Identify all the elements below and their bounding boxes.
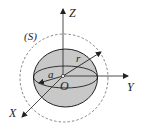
y-axis-label: Y	[127, 80, 135, 94]
charged-sphere	[34, 49, 98, 107]
origin-point	[61, 74, 64, 77]
z-axis-label: Z	[69, 6, 76, 20]
radius-r-label: r	[76, 52, 81, 64]
x-axis-label: X	[8, 106, 17, 120]
sphere-diagram: Z Y X O r a (S)	[0, 0, 149, 133]
surface-label: (S)	[24, 30, 37, 43]
origin-label: O	[60, 79, 69, 93]
radius-a-label: a	[48, 68, 54, 80]
